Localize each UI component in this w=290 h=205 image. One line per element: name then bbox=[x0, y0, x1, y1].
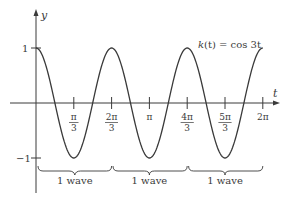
y-axis-label: y bbox=[40, 9, 48, 22]
x-axis-arrow-icon bbox=[273, 101, 280, 106]
brace-wave-3 bbox=[189, 166, 263, 175]
brace-label-2: 1 wave bbox=[132, 175, 168, 186]
chart: y t 1 −1 π 3 2π 3 π 4π 3 5π 3 2π k(t) = … bbox=[0, 0, 290, 205]
x-tick-label-pi: π bbox=[146, 112, 152, 122]
function-expression: (t) = cos 3t bbox=[204, 39, 261, 50]
y-tick-label-neg-1: −1 bbox=[16, 153, 31, 164]
x-tick-label-5pi-3-num: 5π bbox=[219, 112, 231, 122]
brace-label-3: 1 wave bbox=[207, 175, 243, 186]
function-label: k(t) = cos 3t bbox=[198, 39, 261, 50]
x-axis-label: t bbox=[273, 87, 278, 100]
x-tick-label-2pi: 2π bbox=[257, 112, 269, 122]
x-tick-label-2pi-3-num: 2π bbox=[106, 112, 118, 122]
x-tick-label-5pi-3-den: 3 bbox=[222, 123, 228, 133]
brace-wave-1 bbox=[38, 166, 112, 175]
brace-wave-2 bbox=[113, 166, 187, 175]
x-tick-label-pi-3-den: 3 bbox=[71, 123, 77, 133]
x-tick-label-4pi-3-num: 4π bbox=[181, 112, 193, 122]
x-tick-label-4pi-3-den: 3 bbox=[184, 123, 190, 133]
x-tick-label-pi-3-num: π bbox=[71, 112, 77, 122]
x-tick-label-2pi-3-den: 3 bbox=[109, 123, 115, 133]
y-axis-arrow-icon bbox=[34, 9, 39, 16]
y-tick-label-1: 1 bbox=[22, 43, 28, 54]
brace-label-1: 1 wave bbox=[57, 175, 93, 186]
